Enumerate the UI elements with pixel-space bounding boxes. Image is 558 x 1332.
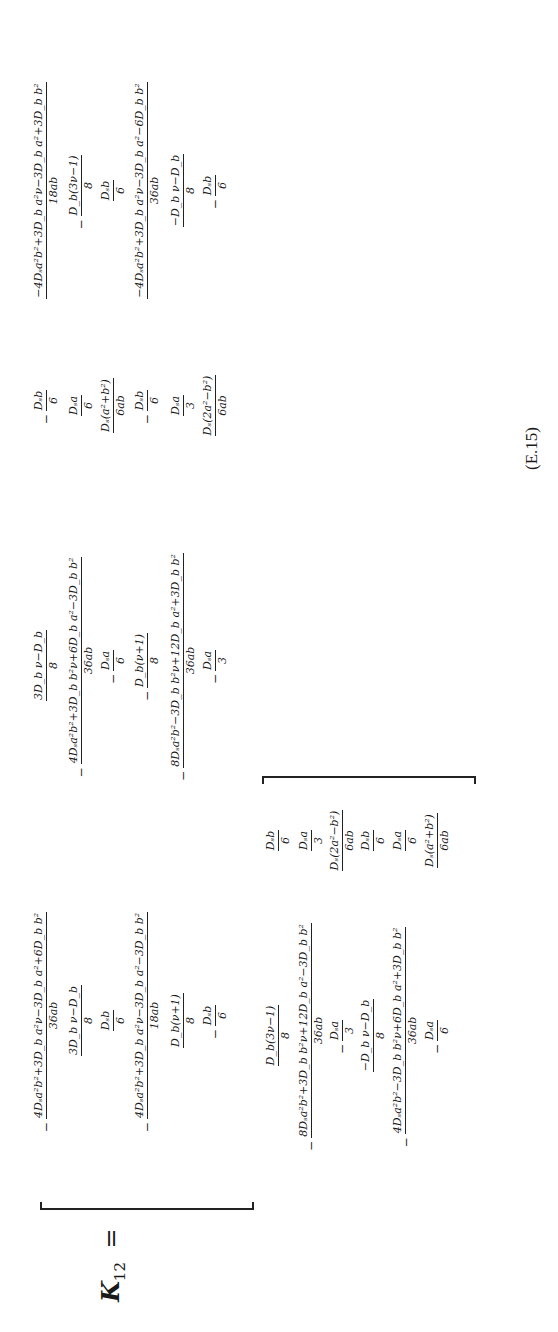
fraction: 4Dₛa²b²+3D_b b²ν+6D_b a²−3D_b b²36ab xyxy=(68,557,94,765)
denominator: 6 xyxy=(114,187,127,194)
matrix-column-3: −Dₛb6Dₛa6Dₛ(a²+b²)6ab−Dₛb6Dₛa3Dₛ(2a²−b²)… xyxy=(28,342,230,472)
minus-sign: − xyxy=(304,1141,318,1151)
matrix-entry: Dₛb6 xyxy=(98,180,128,205)
fraction: −4Dₛa²b²+3D_b a²ν−3D_b a²−6D_b b²36ab xyxy=(134,82,160,298)
minus-sign: − xyxy=(430,1044,444,1054)
fraction: Dₛa3 xyxy=(202,650,228,671)
matrix-column-5: D_b(3ν−1)8−8Dₛa²b²+3D_b b²ν+12D_b a²−3D_… xyxy=(262,862,452,1212)
denominator: 18ab xyxy=(47,177,60,205)
numerator: Dₛa xyxy=(298,830,312,851)
denominator: 3 xyxy=(312,837,325,844)
matrix-entry: D_b(ν+1)8 xyxy=(166,993,200,1051)
denominator: 8 xyxy=(374,1032,387,1039)
matrix-entry: Dₛ(2a²−b²)6ab xyxy=(200,375,230,440)
numerator: 4Dₛa²b²+3D_b a²ν−3D_b a²+6D_b b² xyxy=(33,912,47,1119)
matrix-entry: Dₛa3 xyxy=(295,830,327,854)
fraction: Dₛ(a²+b²)6ab xyxy=(424,813,450,868)
fraction: Dₛa6 xyxy=(424,1020,450,1041)
matrix-entry: −Dₛa3 xyxy=(200,650,230,684)
minus-sign: − xyxy=(39,414,53,424)
matrix-column-4: −4Dₛa²b²+3D_b a²ν−3D_b a²+3D_b b²18ab−D_… xyxy=(28,47,230,337)
fraction: 3D_b ν−D_b8 xyxy=(33,630,59,701)
denominator: 6ab xyxy=(114,395,127,416)
matrix-entry: −Dₛb6 xyxy=(28,390,64,425)
denominator: 6 xyxy=(374,837,387,844)
matrix-entry: −D_b ν−D_b8 xyxy=(357,999,389,1075)
denominator: 3 xyxy=(216,657,229,664)
matrix-entry: −4Dₛa²b²+3D_b a²ν−3D_b a²−3D_b b²18ab xyxy=(128,912,166,1132)
matrix-entry: −Dₛb6 xyxy=(200,175,230,210)
fraction: Dₛ(2a²−b²)6ab xyxy=(202,375,228,437)
matrix-entry: −Dₛb6 xyxy=(200,1005,230,1040)
numerator: Dₛa xyxy=(202,650,216,671)
matrix-symbol: K xyxy=(96,1281,125,1302)
numerator: 8Dₛa²b²+3D_b b²ν+12D_b a²−3D_b b² xyxy=(298,923,312,1138)
equals-sign: = xyxy=(97,1228,125,1248)
fraction: Dₛb6 xyxy=(265,830,291,852)
denominator: 6 xyxy=(406,837,419,844)
matrix-entry: −4Dₛa²b²+3D_b a²ν−3D_b a²−6D_b b²36ab xyxy=(128,82,166,301)
numerator: 4Dₛa²b²+3D_b a²ν−3D_b a²−3D_b b² xyxy=(134,912,148,1119)
numerator: Dₛb xyxy=(134,390,148,412)
denominator: 8 xyxy=(184,1017,197,1024)
fraction: Dₛ(a²+b²)6ab xyxy=(100,378,126,433)
equation-lhs: K12 = xyxy=(96,1228,129,1302)
matrix-entry: Dₛa6 xyxy=(64,395,98,419)
numerator: Dₛb xyxy=(202,175,216,197)
matrix-column-1: −4Dₛa²b²+3D_b a²ν−3D_b a²+6D_b b²36ab3D_… xyxy=(28,852,230,1192)
matrix-entry: −4Dₛa²b²+3D_b a²ν−3D_b a²+6D_b b²36ab xyxy=(28,912,64,1132)
denominator: 6 xyxy=(279,837,292,844)
denominator: 6 xyxy=(114,657,127,664)
denominator: 6ab xyxy=(438,830,451,851)
matrix-entry: D_b(3ν−1)8 xyxy=(262,1005,295,1070)
numerator: Dₛa xyxy=(100,650,114,671)
numerator: Dₛb xyxy=(100,180,114,202)
fraction: 4Dₛa²b²−3D_b b²ν+6D_b a²+3D_b b²36ab xyxy=(392,927,418,1135)
fraction: −D_b ν−D_b8 xyxy=(170,154,196,227)
fraction: Dₛb6 xyxy=(100,180,126,202)
fraction: Dₛb6 xyxy=(134,390,160,412)
numerator: Dₛb xyxy=(265,830,279,852)
fraction: Dₛ(2a²−b²)6ab xyxy=(329,810,355,872)
matrix-entry: −D_b(3ν−1)8 xyxy=(64,155,98,230)
minus-sign: − xyxy=(208,1029,222,1039)
matrix-entry: 3D_b ν−D_b8 xyxy=(64,985,98,1059)
matrix-entry: Dₛb6 xyxy=(262,830,295,855)
fraction: Dₛa6 xyxy=(392,830,418,851)
numerator: D_b(3ν−1) xyxy=(68,155,82,217)
minus-sign: − xyxy=(140,1122,154,1132)
fraction: 8Dₛa²b²+3D_b b²ν+12D_b a²−3D_b b²36ab xyxy=(298,923,324,1138)
fraction: 3D_b ν−D_b8 xyxy=(68,985,94,1056)
fraction: Dₛb6 xyxy=(202,175,228,197)
denominator: 8 xyxy=(82,182,95,189)
denominator: 36ab xyxy=(148,177,161,205)
left-bracket xyxy=(40,1202,254,1210)
numerator: 3D_b ν−D_b xyxy=(68,985,82,1056)
numerator: D_b(ν+1) xyxy=(134,633,148,688)
numerator: D_b(3ν−1) xyxy=(265,1005,279,1067)
matrix-entry: −4Dₛa²b²+3D_b a²ν−3D_b a²+3D_b b²18ab xyxy=(28,82,64,301)
matrix-entry: −Dₛa3 xyxy=(327,1020,357,1054)
matrix-entry: Dₛ(a²+b²)6ab xyxy=(422,813,452,871)
fraction: Dₛb6 xyxy=(202,1005,228,1027)
matrix-entry: −4Dₛa²b²+3D_b b²ν+6D_b a²−3D_b b²36ab xyxy=(64,557,98,778)
matrix-entry: 3D_b ν−D_b8 xyxy=(28,630,64,704)
matrix-entry: Dₛb6 xyxy=(98,1010,128,1035)
matrix-entry: −8Dₛa²b²−3D_b b²ν+12D_b a²+3D_b b²36ab xyxy=(166,553,200,781)
minus-sign: − xyxy=(74,767,88,777)
fraction: Dₛb6 xyxy=(100,1010,126,1032)
numerator: 4Dₛa²b²−3D_b b²ν+6D_b a²+3D_b b² xyxy=(392,927,406,1135)
fraction: D_b(ν+1)8 xyxy=(134,633,160,688)
denominator: 36ab xyxy=(82,647,95,675)
fraction: D_b(3ν−1)8 xyxy=(68,155,94,217)
matrix-column-2: 3D_b ν−D_b8−4Dₛa²b²+3D_b b²ν+6D_b a²−3D_… xyxy=(28,502,230,832)
numerator: Dₛ(2a²−b²) xyxy=(329,810,343,872)
numerator: Dₛ(a²+b²) xyxy=(424,813,438,868)
denominator: 6 xyxy=(114,1017,127,1024)
matrix-entry: −8Dₛa²b²+3D_b b²ν+12D_b a²−3D_b b²36ab xyxy=(295,923,327,1151)
fraction: Dₛa3 xyxy=(329,1020,355,1041)
rotated-page: K12 = −4Dₛa²b²+3D_b a²ν−3D_b a²+6D_b b²3… xyxy=(0,0,558,1332)
matrix-entry: −Dₛa6 xyxy=(98,650,128,684)
denominator: 6 xyxy=(216,1012,229,1019)
denominator: 36ab xyxy=(184,647,197,675)
